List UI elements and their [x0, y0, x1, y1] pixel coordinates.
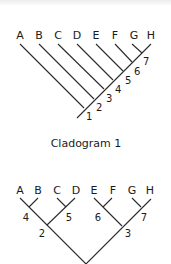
cladogram-2: A B C D E F G H 4 5 6 7 2 3	[16, 184, 154, 264]
taxon-h: H	[146, 184, 154, 197]
node-label-2: 2	[96, 102, 102, 113]
branch-right-main	[86, 199, 151, 264]
branch-g	[132, 198, 141, 207]
taxon-a: A	[16, 29, 24, 42]
node-label-5: 5	[125, 75, 131, 86]
node-label-4: 4	[115, 84, 121, 95]
taxon-c: C	[53, 184, 61, 197]
node-label-5: 5	[66, 212, 72, 223]
node-label-7: 7	[141, 212, 147, 223]
node-label-4: 4	[23, 212, 29, 223]
taxon-d: D	[73, 29, 81, 42]
node-label-3: 3	[125, 228, 131, 239]
cladogram-figure: A B C D E F G H 1 2 3 4 5 6 7 Cladogram …	[0, 0, 171, 264]
node-label-7: 7	[143, 56, 149, 67]
node-label-1: 1	[86, 111, 92, 122]
branch-c	[57, 198, 66, 207]
taxon-d: D	[72, 184, 80, 197]
node-label-3: 3	[106, 93, 112, 104]
taxon-f: F	[110, 184, 116, 197]
taxon-e: E	[93, 29, 100, 42]
caption-cladogram-1: Cladogram 1	[51, 137, 122, 150]
taxon-g: G	[130, 29, 139, 42]
taxon-g: G	[128, 184, 137, 197]
taxon-a: A	[16, 184, 24, 197]
branch-g	[132, 44, 142, 53]
branch-a	[20, 44, 84, 108]
taxon-b: B	[34, 184, 42, 197]
branch-b	[29, 198, 38, 207]
taxon-b: B	[35, 29, 43, 42]
branch-left-main	[20, 198, 86, 264]
taxon-h: H	[147, 29, 155, 42]
node-label-6: 6	[95, 212, 101, 223]
taxon-c: C	[54, 29, 62, 42]
cladogram-1: A B C D E F G H 1 2 3 4 5 6 7	[16, 29, 155, 122]
taxon-e: E	[91, 184, 98, 197]
branch-d	[77, 44, 113, 80]
node-label-2: 2	[39, 228, 45, 239]
branch-f	[115, 44, 132, 62]
node-label-6: 6	[134, 66, 140, 77]
taxon-f: F	[112, 29, 118, 42]
branch-f	[103, 198, 112, 207]
branch-c	[58, 44, 104, 89]
